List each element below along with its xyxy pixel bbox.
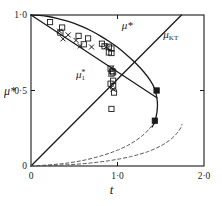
x-axis-title: t — [110, 182, 114, 197]
mu-star-curve-label: μ* — [121, 19, 134, 31]
x-tick-label-1: 1·0 — [111, 171, 124, 181]
marker-open-square — [47, 20, 52, 25]
mu-1-star-label: μ1* — [75, 68, 86, 82]
figure-container: 01·02·000·51·0μ*μKTμ1*tμ* — [0, 0, 222, 206]
mu-1-star-line — [31, 15, 157, 98]
y-tick-label-2: 1·0 — [14, 10, 27, 20]
x-tick-label-0: 0 — [29, 171, 34, 181]
dashed-branch-upper — [31, 126, 152, 166]
marker-open-square — [85, 36, 90, 41]
mu-star-boundary — [31, 15, 157, 127]
dashed-branch-lower — [31, 124, 182, 166]
mu-star-phase-diagram: 01·02·000·51·0μ*μKTμ1*tμ* — [0, 0, 222, 206]
marker-filled-square — [152, 118, 157, 123]
mu-kt-line-label: μKT — [162, 28, 179, 42]
y-axis-title: μ* — [3, 84, 16, 98]
marker-cross — [66, 32, 71, 37]
x-tick-label-2: 2·0 — [198, 171, 211, 181]
marker-cross — [89, 45, 94, 50]
y-tick-label-1: 0·5 — [14, 86, 27, 96]
marker-open-square — [76, 33, 81, 38]
y-tick-label-0: 0 — [22, 161, 27, 171]
marker-open-square — [60, 25, 65, 30]
marker-open-square — [109, 106, 114, 111]
marker-cross — [61, 36, 66, 41]
marker-filled-square — [154, 88, 159, 93]
